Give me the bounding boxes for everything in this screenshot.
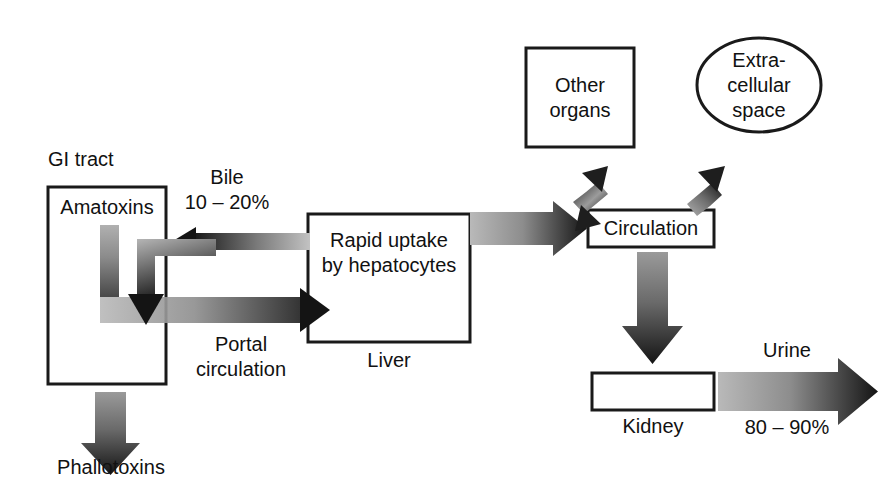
extracellular-line-2: cellular: [727, 73, 790, 98]
portal-label-line-2: circulation: [171, 357, 311, 382]
bile-percent-label: 10 – 20%: [160, 190, 294, 215]
urine-label: Urine: [742, 338, 832, 363]
liver-line-2: by hepatocytes: [322, 253, 457, 278]
gi-tract-label: GI tract: [48, 147, 114, 172]
extracellular-line-1: Extra-: [732, 48, 785, 73]
amatoxins-label: Amatoxins: [48, 190, 166, 224]
phallotoxins-label: Phallotoxins: [35, 455, 187, 480]
portal-circulation-band: [100, 297, 310, 323]
circulation-to-kidney-arrow: [622, 252, 683, 364]
urine-percent-label: 80 – 90%: [722, 415, 852, 440]
amatoxins-text: Amatoxins: [60, 195, 153, 220]
amatoxins-portal-band: [100, 225, 119, 297]
circulation-label: Circulation: [588, 210, 714, 247]
portal-label-line-1: Portal: [178, 332, 304, 357]
liver-box-text: Rapid uptake by hepatocytes: [308, 222, 470, 284]
bile-label: Bile: [168, 165, 286, 190]
circulation-text: Circulation: [604, 216, 698, 241]
other-organs-line-1: Other: [555, 73, 605, 98]
kidney-box: [592, 373, 714, 410]
other-organs-label: Other organs: [526, 48, 634, 147]
liver-to-circulation-arrow: [470, 201, 587, 256]
liver-line-1: Rapid uptake: [330, 228, 448, 253]
extracellular-space-label: Extra- cellular space: [697, 38, 821, 132]
other-organs-line-2: organs: [549, 98, 610, 123]
liver-label: Liver: [308, 348, 470, 373]
bile-elbow-band: [137, 239, 216, 300]
circulation-to-extracellular-arrow: [687, 166, 725, 216]
portal-arrowhead-icon: [300, 288, 330, 332]
diagram-canvas: GI tract Amatoxins Rapid uptake by hepat…: [0, 0, 892, 498]
kidney-label: Kidney: [592, 414, 714, 439]
extracellular-line-3: space: [732, 98, 785, 123]
